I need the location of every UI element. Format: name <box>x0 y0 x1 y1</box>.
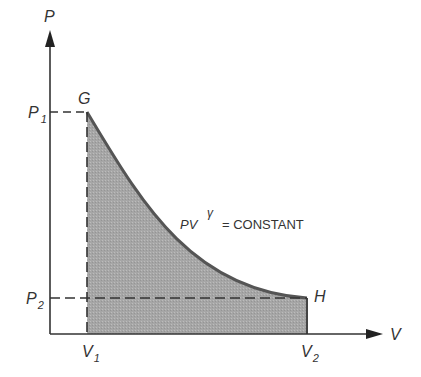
y-axis-label: P <box>44 8 55 25</box>
v1-label: V1 <box>82 343 100 364</box>
equation-exponent: γ <box>207 206 214 220</box>
x-axis-arrow-icon <box>366 329 383 339</box>
y-axis-arrow-icon <box>45 30 55 47</box>
point-g-label: G <box>78 90 90 107</box>
diagram-svg: P V G H P1 P2 V1 V2 PV γ = CONSTANT <box>0 0 421 377</box>
equation-base: PV <box>180 217 199 232</box>
point-h-label: H <box>314 288 326 305</box>
p2-label: P2 <box>26 290 44 311</box>
v2-label: V2 <box>301 343 319 364</box>
x-axis-label: V <box>390 326 402 343</box>
equation-rest: = CONSTANT <box>222 217 304 232</box>
p1-label: P1 <box>28 104 47 125</box>
pv-diagram: P V G H P1 P2 V1 V2 PV γ = CONSTANT <box>0 0 421 377</box>
